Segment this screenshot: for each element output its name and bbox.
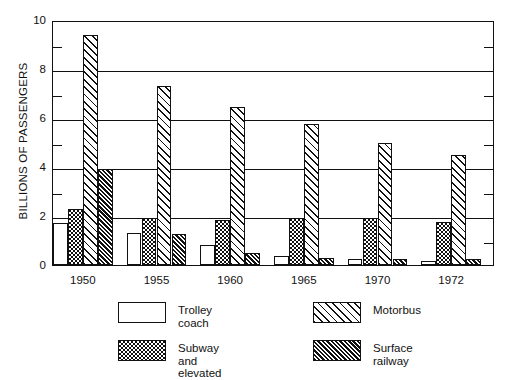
legend-swatch (313, 340, 361, 361)
bar (215, 220, 230, 265)
bar (98, 169, 113, 265)
bar (172, 234, 187, 265)
bar (157, 86, 172, 265)
bar (142, 218, 157, 265)
bar (274, 256, 289, 265)
plot-area (52, 21, 494, 266)
bar-group (127, 22, 201, 265)
legend-label: Trolley coach (178, 304, 212, 329)
bar (83, 35, 98, 265)
y-axis-tick-label: 10 (12, 15, 46, 27)
bar-group (53, 22, 127, 265)
bar (451, 155, 466, 265)
x-axis-tick-label: 1965 (274, 274, 334, 286)
x-axis-tick-label: 1972 (421, 274, 481, 286)
x-axis-tick-label: 1960 (200, 274, 260, 286)
bar (200, 245, 215, 265)
bar (319, 258, 334, 265)
legend-swatch (118, 340, 166, 361)
bar (289, 218, 304, 265)
bar (393, 259, 408, 265)
x-axis-tick-label: 1955 (127, 274, 187, 286)
bar-group (348, 22, 422, 265)
y-axis-tick-label: 0 (12, 260, 46, 272)
bar-group (274, 22, 348, 265)
bar (68, 209, 83, 265)
legend-label: Motorbus (373, 304, 421, 317)
x-axis-tick-label: 1950 (53, 274, 113, 286)
y-axis-tick-label: 4 (12, 162, 46, 174)
legend-swatch (313, 302, 361, 323)
bar (348, 259, 363, 265)
x-axis-tick-label: 1970 (348, 274, 408, 286)
bar (421, 261, 436, 265)
bar (304, 124, 319, 265)
legend-label: Subway and elevated (178, 342, 221, 380)
bar (230, 107, 245, 265)
bar (127, 233, 142, 265)
legend-label: Surface railway (373, 342, 413, 367)
bar (378, 143, 393, 266)
chart-legend: Trolley coachMotorbusSubway and elevated… (0, 296, 506, 375)
y-axis-tick-label: 6 (12, 113, 46, 125)
y-axis-tick-label: 8 (12, 64, 46, 76)
legend-swatch (118, 302, 166, 323)
bar-group (421, 22, 495, 265)
bar-group (200, 22, 274, 265)
bar (245, 253, 260, 265)
bar (436, 222, 451, 265)
bar (363, 218, 378, 265)
y-axis-tick-label: 2 (12, 211, 46, 223)
bar (466, 259, 481, 265)
bar (53, 223, 68, 265)
